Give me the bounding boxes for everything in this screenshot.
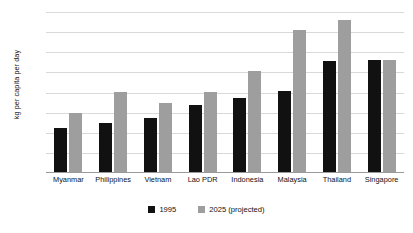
bar-group	[91, 12, 136, 173]
bar-thailand-1995	[323, 61, 336, 173]
bar-myanmar-1995	[54, 128, 67, 173]
y-axis-title: kg per capita per day	[12, 25, 21, 145]
bar-vietnam-2025	[159, 103, 172, 173]
bar-philippines-2025	[114, 92, 127, 174]
legend-swatch-icon	[198, 206, 205, 213]
bar-group	[225, 12, 270, 173]
bar-philippines-1995	[99, 123, 112, 173]
bar-group	[180, 12, 225, 173]
x-axis-tick-label: Malaysia	[270, 175, 315, 184]
bar-myanmar-2025	[69, 113, 82, 173]
bar-group	[315, 12, 360, 173]
x-axis-tick-label: Singapore	[359, 175, 404, 184]
legend-item: 2025 (projected)	[198, 205, 264, 214]
bar-singapore-2025	[383, 60, 396, 173]
bar-vietnam-1995	[144, 118, 157, 173]
x-axis-tick-label: Thailand	[315, 175, 360, 184]
bar-malaysia-2025	[293, 30, 306, 173]
bar-thailand-2025	[338, 20, 351, 173]
x-axis-tick-label: Myanmar	[46, 175, 91, 184]
legend-label: 1995	[159, 205, 176, 214]
x-axis-tick-label: Vietnam	[136, 175, 181, 184]
x-axis-tick-label: Philippines	[91, 175, 136, 184]
plot-area: 1.601.401.201.000.800.600.400.200.00	[46, 12, 404, 173]
bar-group	[270, 12, 315, 173]
legend-label: 2025 (projected)	[209, 205, 264, 214]
x-axis-tick-label: Lao PDR	[180, 175, 225, 184]
bar-malaysia-1995	[278, 91, 291, 174]
bar-group	[136, 12, 181, 173]
bar-chart: kg per capita per day 1.601.401.201.000.…	[0, 0, 413, 233]
bar-lao-pdr-2025	[204, 92, 217, 174]
bar-indonesia-2025	[248, 71, 261, 173]
x-axis-labels: MyanmarPhilippinesVietnamLao PDRIndonesi…	[46, 175, 404, 184]
legend-swatch-icon	[148, 206, 155, 213]
bar-groups	[46, 12, 404, 173]
x-axis-tick-label: Indonesia	[225, 175, 270, 184]
legend-item: 1995	[148, 205, 176, 214]
bar-group	[359, 12, 404, 173]
x-axis-line	[46, 172, 404, 173]
bar-indonesia-1995	[233, 98, 246, 173]
bar-lao-pdr-1995	[189, 105, 202, 173]
legend: 19952025 (projected)	[0, 205, 413, 214]
bar-group	[46, 12, 91, 173]
bar-singapore-1995	[368, 60, 381, 173]
